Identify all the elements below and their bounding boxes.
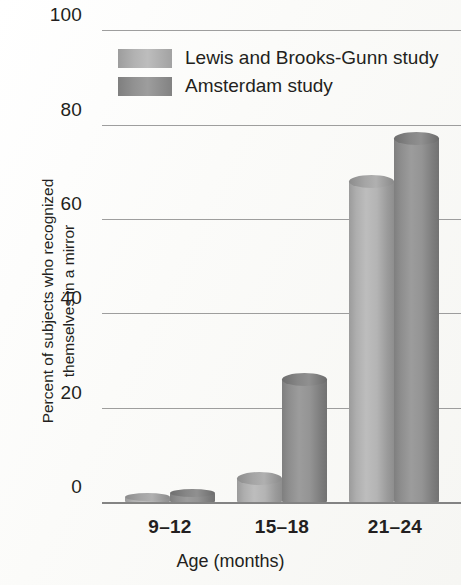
bar-cap <box>237 472 282 485</box>
y-axis-title: Percent of subjects who recognized thems… <box>37 91 79 511</box>
bar-15-18-amsterdam <box>282 379 327 502</box>
bar-21-24-amsterdam <box>394 138 439 502</box>
y-axis-title-line2: themselves in a mirror <box>58 91 79 511</box>
legend-swatch-lewis <box>118 49 172 68</box>
x-tick-label-9-12: 9–12 <box>110 516 230 538</box>
bar-chart: 100 80 60 40 20 0 Percent of subjects wh… <box>0 0 461 585</box>
gridline-100 <box>102 30 461 31</box>
bar-cap <box>349 175 394 188</box>
bar-cap <box>125 493 170 501</box>
y-tick-label-100: 100 <box>50 4 82 26</box>
bar-15-18-lewis <box>237 478 282 502</box>
y-axis-title-line1: Percent of subjects who recognized <box>37 91 58 511</box>
legend: Lewis and Brooks-Gunn study Amsterdam st… <box>118 44 438 100</box>
x-tick-label-15-18: 15–18 <box>222 516 342 538</box>
legend-swatch-amsterdam <box>118 77 172 96</box>
legend-label-lewis: Lewis and Brooks-Gunn study <box>185 47 438 69</box>
x-tick-label-21-24: 21–24 <box>335 516 455 538</box>
bar-9-12-lewis <box>125 497 170 502</box>
bar-21-24-lewis <box>349 181 394 502</box>
bar-cap <box>394 132 439 145</box>
axis-baseline <box>102 502 461 504</box>
x-axis-title: Age (months) <box>0 551 461 572</box>
bar-9-12-amsterdam <box>170 493 215 502</box>
legend-item-lewis: Lewis and Brooks-Gunn study <box>118 44 438 72</box>
gridline-80 <box>102 125 461 126</box>
bar-cap <box>282 373 327 386</box>
bar-cap <box>170 489 215 497</box>
legend-item-amsterdam: Amsterdam study <box>118 72 438 100</box>
legend-label-amsterdam: Amsterdam study <box>185 75 333 97</box>
